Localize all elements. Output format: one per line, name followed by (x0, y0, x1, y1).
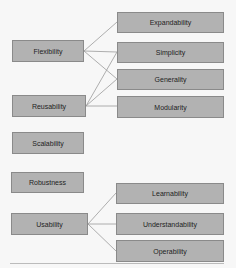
node-label: Generality (155, 76, 187, 83)
node-label: Robustness (29, 179, 66, 186)
node-scalability: Scalability (12, 132, 84, 154)
node-generality: Generality (117, 69, 224, 90)
node-simplicity: Simplicity (117, 42, 224, 63)
node-modularity: Modularity (117, 96, 224, 118)
node-label: Simplicity (156, 49, 186, 56)
node-operability: Operability (116, 240, 224, 262)
node-flexibility: Flexibility (12, 40, 84, 62)
node-label: Understandability (143, 221, 197, 228)
node-learnability: Learnability (116, 183, 224, 204)
node-label: Scalability (32, 140, 64, 147)
node-robustness: Robustness (11, 172, 84, 193)
node-label: Operability (153, 248, 186, 255)
edge-flexibility-expandability (84, 22, 117, 51)
node-understandability: Understandability (116, 213, 224, 235)
edge-reusability-generality (86, 79, 117, 106)
node-usability: Usability (11, 213, 88, 235)
edge-usability-operability (88, 224, 116, 251)
node-label: Expandability (150, 19, 192, 26)
node-expandability: Expandability (117, 12, 224, 33)
edge-usability-learnability (88, 193, 116, 224)
bottom-divider (10, 263, 224, 264)
edge-flexibility-simplicity (84, 51, 117, 52)
node-label: Modularity (154, 104, 186, 111)
node-label: Reusability (32, 103, 66, 110)
node-label: Learnability (152, 190, 188, 197)
node-reusability: Reusability (12, 95, 86, 117)
node-label: Usability (36, 221, 62, 228)
edge-flexibility-generality (84, 51, 117, 79)
edge-reusability-simplicity (86, 52, 117, 106)
node-label: Flexibility (34, 48, 63, 55)
